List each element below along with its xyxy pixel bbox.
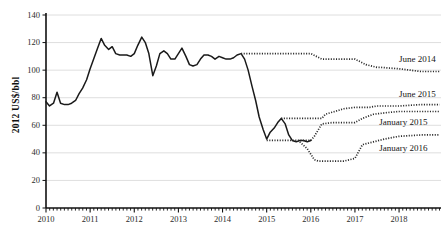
- y-tick-label: 60: [14, 120, 40, 130]
- series-label: January 2016: [379, 143, 427, 153]
- x-tick-label: 2012: [117, 214, 151, 224]
- x-tick-label: 2014: [206, 214, 240, 224]
- y-tick-label: 20: [14, 175, 40, 185]
- chart-container: 2012 US$/bbl 020406080100120140 20102011…: [0, 0, 447, 242]
- y-tick-label: 40: [14, 147, 40, 157]
- series-label: January 2015: [379, 117, 427, 127]
- series-label: June 2014: [399, 54, 436, 64]
- x-tick-label: 2013: [161, 214, 195, 224]
- gridlines: [46, 15, 441, 180]
- x-tick-label: 2015: [250, 214, 284, 224]
- x-tick-label: 2018: [382, 214, 416, 224]
- y-tick-label: 140: [14, 10, 40, 20]
- x-tick-label: 2010: [29, 214, 63, 224]
- x-tick-label: 2011: [73, 214, 107, 224]
- y-tick-label: 100: [14, 65, 40, 75]
- y-tick-label: 80: [14, 92, 40, 102]
- series-line: [46, 37, 311, 142]
- y-tick-label: 120: [14, 37, 40, 47]
- x-tick-label: 2016: [294, 214, 328, 224]
- y-tick-label: 0: [14, 203, 40, 213]
- x-tick-label: 2017: [338, 214, 372, 224]
- series-label: June 2015: [399, 89, 436, 99]
